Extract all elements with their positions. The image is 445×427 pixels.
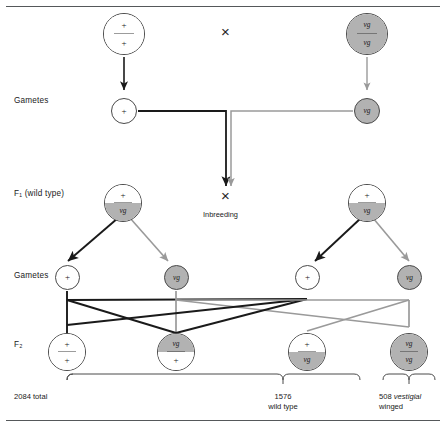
f2-g3-allele-bottom-cell: vg <box>289 352 325 370</box>
gamete-vg-right-label: vg <box>364 107 371 114</box>
vestigial-count-number: 508 <box>379 392 392 401</box>
f2-g2-allele-bottom: + <box>173 356 178 365</box>
row-label-f2: F₂ <box>14 340 23 349</box>
f2-g2-allele-top: vg <box>173 340 180 347</box>
wild-type-count-label: 1576 wild type <box>243 392 323 413</box>
row-label-gametes-lower: Gametes <box>14 271 49 280</box>
wild-type-count-text: wild type <box>243 402 323 412</box>
row-label-f1-text: F₁ (wild type) <box>14 189 64 198</box>
vestigial-count-text: winged <box>379 402 421 412</box>
inbreeding-cross-symbol: × <box>221 188 230 203</box>
f2-genotype-2-circle: vg + <box>157 333 195 371</box>
f2-g3-allele-top-cell: + <box>289 334 325 352</box>
f2-g3-allele-bottom: vg <box>304 356 311 363</box>
parent-right-allele-bottom: vg <box>364 39 371 46</box>
parent-left-allele-top: + <box>121 21 126 30</box>
parent-wild-type-circle: + + <box>103 13 145 55</box>
parent-right-allele-bottom-cell: vg <box>347 34 387 54</box>
parent-left-allele-bottom: + <box>121 39 126 48</box>
parental-cross-symbol: × <box>221 24 230 39</box>
f1-left-allele-bottom: vg <box>120 207 127 214</box>
gamete-vg-right-circle: vg <box>354 98 380 124</box>
f2-g1-allele-bottom-cell: + <box>49 352 85 370</box>
row-label-f1: F₁ (wild type) <box>14 189 64 198</box>
vestigial-count-line-1: 508 vestigial <box>379 392 421 402</box>
f2-g2-allele-top-cell: vg <box>158 334 194 352</box>
f1-right-allele-top-cell: + <box>349 185 385 203</box>
f1-gamete-vg-right-label: vg <box>406 274 413 281</box>
f1-gamete-plus-left-circle: + <box>55 265 80 290</box>
f1-right-allele-top: + <box>364 191 369 200</box>
f2-g3-allele-top: + <box>304 340 309 349</box>
f2-g2-allele-bottom-cell: + <box>158 352 194 370</box>
f1-right-allele-bottom: vg <box>364 207 371 214</box>
f2-genotype-3-circle: + vg <box>288 333 326 371</box>
f1-left-allele-top: + <box>120 191 125 200</box>
f1-gamete-plus-right-label: + <box>305 273 310 282</box>
genetics-cross-figure: Gametes F₁ (wild type) Gametes F₂ + + × … <box>0 0 445 427</box>
f2-g1-allele-top: + <box>64 340 69 349</box>
f1-gamete-vg-left-circle: vg <box>164 265 189 290</box>
f1-right-circle: + vg <box>348 184 386 222</box>
f2-genotype-1-circle: + + <box>48 333 86 371</box>
f2-g4-allele-top-cell: vg <box>391 334 427 352</box>
parent-left-allele-top-cell: + <box>104 14 144 34</box>
inbreeding-label: Inbreeding <box>203 210 238 219</box>
f2-g4-allele-bottom-cell: vg <box>391 352 427 370</box>
f1-gamete-vg-right-circle: vg <box>397 265 422 290</box>
f1-left-circle: + vg <box>104 184 142 222</box>
wild-type-count-number: 1576 <box>243 392 323 402</box>
f2-g1-allele-top-cell: + <box>49 334 85 352</box>
total-count-label: 2084 total <box>14 392 47 402</box>
f2-g1-allele-bottom: + <box>64 356 69 365</box>
gamete-plus-left-label: + <box>121 107 126 116</box>
parent-left-allele-bottom-cell: + <box>104 34 144 54</box>
f2-genotype-4-circle: vg vg <box>390 333 428 371</box>
gamete-plus-left-circle: + <box>111 98 137 124</box>
parent-right-allele-top: vg <box>364 21 371 28</box>
parent-right-allele-top-cell: vg <box>347 14 387 34</box>
f1-gamete-plus-left-label: + <box>65 273 70 282</box>
f1-right-allele-bottom-cell: vg <box>349 203 385 221</box>
row-label-gametes-upper: Gametes <box>14 96 49 105</box>
f1-left-allele-bottom-cell: vg <box>105 203 141 221</box>
f1-gamete-vg-left-label: vg <box>173 274 180 281</box>
parent-vestigial-circle: vg vg <box>346 13 388 55</box>
f2-g4-allele-top: vg <box>406 340 413 347</box>
f1-left-allele-top-cell: + <box>105 185 141 203</box>
f1-gamete-plus-right-circle: + <box>295 265 320 290</box>
f2-g4-allele-bottom: vg <box>406 356 413 363</box>
vestigial-count-label: 508 vestigial winged <box>379 392 421 413</box>
vestigial-count-italic: vestigial <box>394 392 421 401</box>
